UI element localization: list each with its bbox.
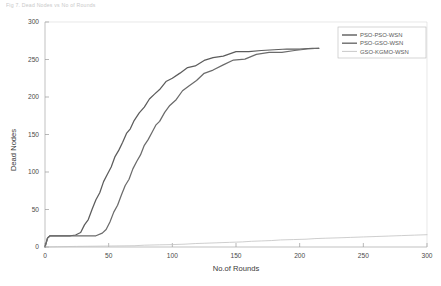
x-tick-label: 0	[43, 252, 47, 259]
figure-root: Fig 7. Dead Nodes vs No of Rounds 050100…	[0, 0, 441, 286]
legend-label: GSO-KGMO-WSN	[360, 49, 409, 55]
x-tick-label: 200	[294, 252, 305, 259]
x-axis-title: No.of Rounds	[213, 264, 260, 273]
y-tick-label: 50	[32, 206, 40, 213]
legend-label: PSO-PSO-WSN	[360, 32, 403, 38]
x-tick-label: 150	[230, 252, 241, 259]
line-chart: 050100150200250300 050100150200250300 De…	[0, 0, 441, 286]
y-tick-label: 300	[28, 18, 39, 25]
y-axis-tick-labels: 050100150200250300	[28, 18, 39, 250]
x-tick-label: 250	[358, 252, 369, 259]
y-tick-label: 150	[28, 131, 39, 138]
y-tick-label: 200	[28, 93, 39, 100]
x-tick-label: 100	[167, 252, 178, 259]
series-line	[45, 48, 319, 247]
x-axis-tick-labels: 050100150200250300	[43, 252, 433, 259]
y-tick-label: 0	[35, 243, 39, 250]
series-lines	[45, 48, 427, 247]
y-tick-label: 100	[28, 168, 39, 175]
series-line	[45, 48, 319, 247]
x-tick-label: 50	[105, 252, 113, 259]
y-tick-label: 250	[28, 56, 39, 63]
legend-label: PSO-GSO-WSN	[360, 40, 403, 46]
legend-items: PSO-PSO-WSNPSO-GSO-WSNGSO-KGMO-WSN	[342, 32, 409, 54]
y-axis-title: Dead Nodes	[9, 129, 18, 171]
legend: PSO-PSO-WSNPSO-GSO-WSNGSO-KGMO-WSN	[338, 27, 426, 58]
y-axis-ticks	[45, 22, 49, 247]
x-tick-label: 300	[421, 252, 432, 259]
